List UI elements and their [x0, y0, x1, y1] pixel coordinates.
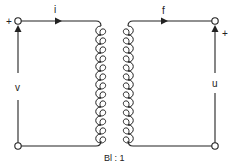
voltage-label-v: v	[15, 82, 20, 93]
left-port	[15, 18, 102, 150]
voltage-label-u: u	[212, 78, 218, 89]
left-plus-label: +	[6, 16, 12, 27]
voltage-arrow-v-head	[15, 25, 22, 32]
left-bottom-terminal	[15, 143, 21, 149]
current-arrow-f	[161, 18, 168, 25]
left-top-terminal	[15, 18, 21, 24]
left-top-corner	[96, 21, 101, 26]
current-label-f: f	[162, 5, 165, 16]
right-port	[128, 18, 219, 150]
voltage-arrow-u-head	[212, 25, 219, 32]
secondary-coil	[123, 26, 133, 143]
current-arrow-i	[55, 18, 62, 25]
primary-coil	[96, 26, 106, 143]
current-label-i: i	[54, 4, 56, 15]
right-plus-label: +	[222, 28, 228, 39]
turns-ratio-label: Bl : 1	[104, 153, 125, 163]
transformer-diagram: + i v f + u Bl : 1	[0, 0, 233, 165]
right-top-terminal	[212, 18, 218, 24]
right-bottom-terminal	[212, 143, 218, 149]
right-top-corner	[128, 21, 133, 26]
